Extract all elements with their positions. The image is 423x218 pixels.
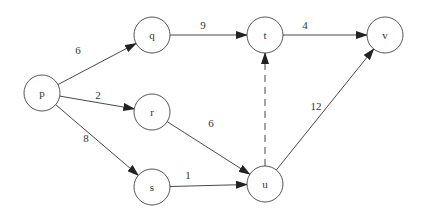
node-label: p [39, 87, 45, 99]
node-p: p [24, 75, 60, 111]
edge-weight-s-u: 1 [185, 169, 191, 181]
edge-u-v [276, 49, 373, 170]
node-v: v [367, 17, 403, 53]
edge-s-u [170, 185, 247, 187]
edge-labels-layer: 628946112 [75, 19, 321, 181]
node-label: t [263, 29, 266, 41]
edge-r-u [167, 122, 250, 175]
node-label: v [382, 29, 388, 41]
edges-layer [56, 35, 374, 187]
node-r: r [134, 94, 170, 130]
node-s: s [134, 169, 170, 205]
node-label: s [150, 181, 154, 193]
graph-diagram: pqrstuv 628946112 [0, 0, 423, 218]
edge-weight-q-t: 9 [200, 19, 206, 31]
edge-p-q [58, 43, 136, 84]
nodes-layer: pqrstuv [24, 17, 403, 205]
node-label: r [150, 106, 154, 118]
edge-weight-t-v: 4 [302, 19, 308, 31]
node-u: u [247, 166, 283, 202]
edge-weight-u-v: 12 [311, 100, 322, 112]
node-label: u [262, 178, 268, 190]
node-t: t [247, 17, 283, 53]
edge-weight-p-r: 2 [95, 89, 101, 101]
edge-p-s [56, 105, 139, 176]
edge-weight-r-u: 6 [208, 117, 214, 129]
node-q: q [134, 17, 170, 53]
edge-weight-p-s: 8 [83, 132, 89, 144]
edge-weight-p-q: 6 [75, 44, 81, 56]
node-label: q [149, 29, 155, 41]
